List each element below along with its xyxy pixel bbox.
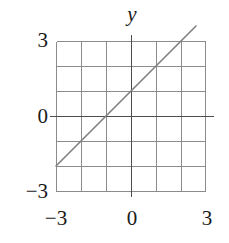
x-tick-label-3: 3 — [183, 208, 229, 229]
y-axis-name-label: y — [108, 4, 156, 25]
x-tick-label-0: 0 — [108, 208, 156, 229]
y-tick-label-3: 3 — [0, 30, 48, 51]
line-y-equals-x-plus-1 — [56, 26, 196, 166]
x-tick-label-minus-3: −3 — [32, 208, 80, 229]
y-tick-label-0: 0 — [0, 106, 48, 127]
coordinate-plot-figure: y 3 0 −3 −3 0 3 — [0, 0, 229, 243]
y-tick-label-minus-3: −3 — [0, 181, 48, 202]
data-series-line — [56, 26, 196, 166]
axis-lines — [50, 35, 214, 197]
